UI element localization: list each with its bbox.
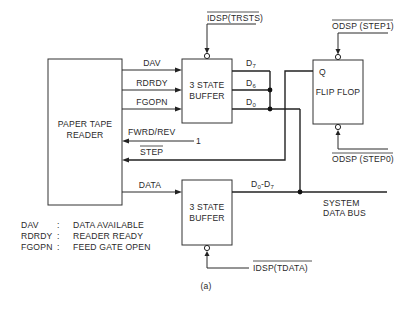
- legend-sep: :: [57, 231, 60, 241]
- arrow-up-icon: [205, 251, 210, 256]
- d6-label: D6: [246, 78, 256, 89]
- arrow-right-icon: [175, 88, 182, 93]
- data-buffer-label-line2: BUFFER: [189, 213, 225, 223]
- arrow-down-icon: [336, 49, 341, 55]
- data-buffer-label-line1: 3 STATE: [190, 202, 225, 212]
- junction-dot: [268, 88, 273, 93]
- arrow-right-icon: [175, 107, 182, 112]
- status-buffer-label-line2: BUFFER: [189, 91, 225, 101]
- arrow-down-icon: [205, 48, 210, 54]
- system-data-bus: D0-D7 SYSTEM DATA BUS: [232, 179, 387, 218]
- fgopn-label: FGOPN: [136, 97, 168, 107]
- data-label: DATA: [139, 180, 162, 190]
- legend-abbr: RDRDY: [21, 231, 53, 241]
- flip-flop-reset-bubble: [335, 124, 340, 129]
- status-signal-lines: DAV RDRDY FGOPN: [122, 58, 182, 112]
- idsp-tdata-wire: [207, 254, 249, 268]
- d7-label: D7: [246, 58, 256, 69]
- legend: DAV : DATA AVAILABLE RDRDY : READER READ…: [21, 220, 151, 252]
- flip-flop-q-label: Q: [319, 67, 326, 77]
- reader-label-line2: READER: [66, 130, 103, 140]
- legend-meaning: FEED GATE OPEN: [73, 242, 151, 252]
- legend-meaning: DATA AVAILABLE: [73, 220, 144, 230]
- flip-flop-set-bubble: [335, 54, 340, 59]
- legend-abbr: DAV: [21, 220, 39, 230]
- arrow-right-icon: [175, 68, 182, 73]
- paper-tape-reader-interface-diagram: PAPER TAPE READER 3 STATE BUFFER IDSP(TR…: [0, 0, 417, 311]
- odsp-step1-wire: [338, 33, 388, 51]
- junction-dot: [268, 107, 273, 112]
- legend-abbr: FGOPN: [21, 242, 53, 252]
- status-bits-bus: D7 D6 D0: [232, 58, 300, 192]
- d0-d7-label: D0-D7: [251, 179, 274, 190]
- data-signal: DATA: [122, 180, 182, 195]
- data-buffer-enable-bubble: [204, 245, 209, 250]
- odsp-step1-label: ODSP (STEP1): [332, 21, 394, 31]
- reader-label-line1: PAPER TAPE: [58, 119, 113, 129]
- paper-tape-reader-block: PAPER TAPE READER: [48, 59, 122, 205]
- flip-flop-label: FLIP FLOP: [316, 87, 361, 97]
- system-bus-label-line2: DATA BUS: [323, 208, 366, 218]
- legend-meaning: READER READY: [73, 231, 143, 241]
- idsp-tdata-label: IDSP(TDATA): [253, 263, 308, 273]
- system-bus-label-line1: SYSTEM: [323, 198, 360, 208]
- odsp-step0-label: ODSP (STEP0): [332, 154, 394, 164]
- step-label: STEP: [140, 147, 163, 157]
- arrow-right-icon: [175, 190, 182, 195]
- idsp-trsts-wire: [207, 24, 256, 50]
- data-buffer-block: 3 STATE BUFFER IDSP(TDATA): [182, 180, 312, 273]
- arrow-left-icon: [122, 158, 129, 163]
- fwrd-rev-value: 1: [196, 136, 201, 146]
- junction-dot: [298, 190, 303, 195]
- fwrd-rev-signal: FWRD/REV 1: [122, 127, 201, 146]
- odsp-step0-wire: [338, 133, 388, 149]
- flip-flop-block: Q FLIP FLOP ODSP (STEP1) ODSP (STEP0): [313, 20, 394, 164]
- status-buffer-label-line1: 3 STATE: [190, 80, 225, 90]
- legend-sep: :: [57, 220, 60, 230]
- dav-label: DAV: [143, 58, 161, 68]
- fwrd-rev-label: FWRD/REV: [128, 127, 175, 137]
- legend-sep: :: [57, 242, 60, 252]
- d0-label: D0: [246, 97, 256, 108]
- status-buffer-enable-bubble: [204, 53, 209, 58]
- rdrdy-label: RDRDY: [136, 78, 168, 88]
- figure-caption: (a): [200, 281, 211, 291]
- arrow-up-icon: [336, 130, 341, 135]
- arrow-left-icon: [122, 139, 129, 144]
- idsp-trsts-label: IDSP(TRSTS): [207, 13, 263, 23]
